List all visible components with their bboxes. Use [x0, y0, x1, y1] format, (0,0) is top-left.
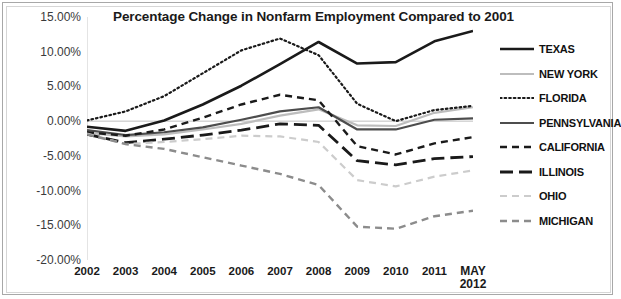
y-axis-tick-labels: 15.00%10.00%5.00%0.00%-5.00%-10.00%-15.0…	[3, 3, 81, 299]
x-axis-tick-label: 2009	[344, 265, 370, 278]
legend-swatch-icon	[500, 92, 534, 104]
legend-label: TEXAS	[539, 43, 575, 55]
y-axis-tick-label: 0.00%	[47, 114, 81, 128]
x-axis-tick-label: 2003	[113, 265, 139, 278]
series-line-michigan	[87, 134, 473, 228]
y-axis-tick-label: -5.00%	[43, 149, 81, 163]
legend-item-michigan[interactable]: MICHIGAN	[500, 209, 618, 234]
series-line-illinois	[87, 124, 473, 165]
legend-label: PENNSYLVANIA	[539, 117, 621, 129]
legend-item-california[interactable]: CALIFORNIA	[500, 135, 618, 160]
y-axis-tick-label: 10.00%	[40, 45, 81, 59]
x-axis-tick-label: 2002	[74, 265, 100, 278]
x-axis-tick-label: 2006	[229, 265, 255, 278]
plot-area	[87, 17, 473, 260]
x-axis-tick-label: 2004	[151, 265, 177, 278]
y-axis-tick-label: 15.00%	[40, 10, 81, 24]
y-axis-tick-label: -10.00%	[36, 184, 81, 198]
legend-swatch-icon	[500, 190, 534, 202]
legend-swatch-icon	[500, 43, 534, 55]
legend-label: FLORIDA	[539, 92, 586, 104]
y-axis-tick-label: 5.00%	[47, 79, 81, 93]
legend-item-texas[interactable]: TEXAS	[500, 37, 618, 62]
x-axis-tick-label: 2007	[267, 265, 293, 278]
legend-swatch-icon	[500, 117, 534, 129]
legend-swatch-icon	[500, 215, 534, 227]
legend-swatch-icon	[500, 141, 534, 153]
x-axis-tick-labels: 2002200320042005200620072008200920102011…	[3, 265, 503, 299]
legend-label: CALIFORNIA	[539, 141, 605, 153]
y-axis-tick-label: -15.00%	[36, 218, 81, 232]
legend-label: MICHIGAN	[539, 215, 593, 227]
legend-item-new-york[interactable]: NEW YORK	[500, 62, 618, 87]
x-axis-tick-label: 2011	[422, 265, 447, 278]
legend-label: ILLINOIS	[539, 166, 584, 178]
legend-item-florida[interactable]: FLORIDA	[500, 86, 618, 111]
legend-swatch-icon	[500, 68, 534, 80]
legend-item-pennsylvania[interactable]: PENNSYLVANIA	[500, 111, 618, 136]
x-axis-tick-label: 2010	[383, 265, 409, 278]
legend-item-ohio[interactable]: OHIO	[500, 184, 618, 209]
legend-label: OHIO	[539, 190, 566, 202]
legend-item-illinois[interactable]: ILLINOIS	[500, 160, 618, 185]
legend-swatch-icon	[500, 166, 534, 178]
x-axis-tick-label: MAY2012	[460, 265, 487, 291]
legend-label: NEW YORK	[539, 68, 598, 80]
x-axis-tick-label: 2008	[306, 265, 332, 278]
x-axis-tick-label: 2005	[190, 265, 216, 278]
chart-outer-frame: Percentage Change in Nonfarm Employment …	[2, 2, 613, 295]
chart-legend: TEXASNEW YORKFLORIDAPENNSYLVANIACALIFORN…	[500, 37, 618, 233]
series-lines	[87, 17, 473, 260]
